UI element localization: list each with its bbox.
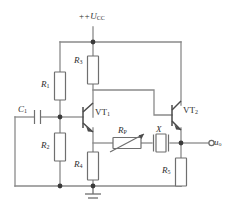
label-vt1-sub: 1 xyxy=(107,111,110,117)
label-r2: R2 xyxy=(41,141,50,150)
label-r4-sub: 4 xyxy=(80,163,83,169)
label-r1-sub: 1 xyxy=(47,83,50,89)
label-rp-sub: P xyxy=(124,129,127,135)
label-rp: RP xyxy=(118,126,127,135)
node-ground xyxy=(91,184,96,189)
quartz-crystal-x-body xyxy=(154,134,169,152)
label-vt2-symbol: VT xyxy=(183,105,195,115)
resistor-r1-body xyxy=(55,72,66,100)
label-r3-sub: 3 xyxy=(80,59,83,65)
node-vcc xyxy=(91,40,96,45)
label-x: X xyxy=(156,125,162,134)
resistor-r4-body xyxy=(88,152,99,180)
circuit-diagram: ++UCC R1 R2 R3 R4 R5 RP C1 X VT1 VT2 uo xyxy=(0,0,228,214)
resistor-r3-body xyxy=(88,56,99,84)
node-output xyxy=(179,141,184,146)
label-r5-sub: 5 xyxy=(168,169,171,175)
resistor-r2-body xyxy=(55,133,66,161)
label-vcc-symbol: +U xyxy=(84,11,97,21)
node-bottom-left xyxy=(58,184,63,189)
variable-resistor-rp-body xyxy=(110,134,144,152)
label-vcc-sub: CC xyxy=(97,15,105,21)
capacitor-c1-body xyxy=(35,110,41,124)
node-base-vt1 xyxy=(58,115,63,120)
label-c1: C1 xyxy=(18,105,27,114)
label-uo-sub: o xyxy=(219,141,222,147)
transistor-vt2-body xyxy=(172,101,181,130)
label-r3: R3 xyxy=(74,56,83,65)
label-r2-sub: 2 xyxy=(47,144,50,150)
label-uo: uo xyxy=(214,138,222,147)
label-r1: R1 xyxy=(41,80,50,89)
label-vt1: VT1 xyxy=(95,108,110,117)
label-vt2: VT2 xyxy=(183,106,198,115)
label-c1-sub: 1 xyxy=(24,108,27,114)
transistor-vt1-body xyxy=(83,103,93,132)
label-r5: R5 xyxy=(162,166,171,175)
label-x-symbol: X xyxy=(156,124,162,134)
label-r4: R4 xyxy=(74,160,83,169)
resistor-r5-body xyxy=(176,158,187,186)
label-vt1-symbol: VT xyxy=(95,107,107,117)
label-vt2-sub: 2 xyxy=(195,109,198,115)
label-vcc: ++UCC xyxy=(79,12,105,21)
